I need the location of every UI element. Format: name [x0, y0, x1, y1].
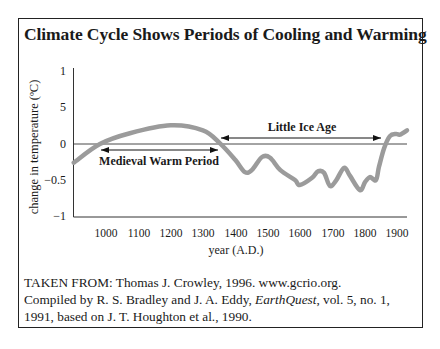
caption-text: , vol. 5, no. 1, — [316, 292, 390, 307]
y-tick-label: −1 — [53, 209, 66, 223]
x-tick-label: 1100 — [128, 227, 151, 239]
medieval-warm-period-label: Medieval Warm Period — [99, 154, 219, 168]
y-tick-label: 5 — [60, 100, 66, 114]
y-tick-label: 1 — [60, 64, 66, 78]
x-tick-labels: 1000 1100 1200 1300 1400 1500 1600 1700 … — [95, 227, 409, 239]
publication-title: EarthQuest — [255, 292, 316, 307]
little-ice-age-label: Little Ice Age — [268, 120, 337, 134]
caption-line-2: Compiled by R. S. Bradley and J. A. Eddy… — [24, 291, 390, 308]
caption-text: Compiled by R. S. Bradley and J. A. Eddy… — [24, 292, 255, 307]
x-tick-label: 1500 — [257, 227, 280, 239]
source-caption: TAKEN FROM: Thomas J. Crowley, 1996. www… — [24, 274, 390, 325]
x-tick-label: 1000 — [95, 227, 118, 239]
y-tick-label: 0 — [60, 137, 66, 151]
x-tick-label: 1900 — [386, 227, 409, 239]
y-tick-labels: 1 5 0 −0.5 −1 — [44, 64, 66, 223]
x-axis-label: year (A.D.) — [209, 243, 264, 257]
x-tick-label: 1300 — [192, 227, 215, 239]
caption-line-3: 1991, based on J. T. Houghton et al., 19… — [24, 308, 390, 325]
caption-line-1: TAKEN FROM: Thomas J. Crowley, 1996. www… — [24, 274, 390, 291]
x-tick-label: 1800 — [354, 227, 377, 239]
x-tick-label: 1200 — [160, 227, 183, 239]
x-tick-label: 1600 — [289, 227, 312, 239]
x-tick-label: 1700 — [322, 227, 345, 239]
y-tick-label: −0.5 — [44, 173, 66, 187]
x-tick-label: 1400 — [225, 227, 248, 239]
